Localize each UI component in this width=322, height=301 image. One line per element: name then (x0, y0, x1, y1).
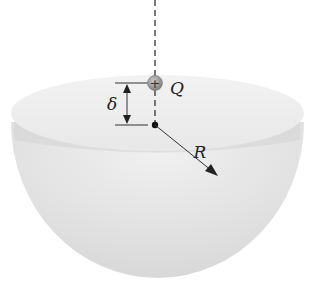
charge-label: Q (170, 78, 184, 98)
radius-label: R (193, 142, 207, 162)
delta-label: δ (107, 94, 117, 114)
hemisphere-diagram: δ R + Q (0, 0, 322, 301)
plus-icon: + (150, 76, 161, 91)
